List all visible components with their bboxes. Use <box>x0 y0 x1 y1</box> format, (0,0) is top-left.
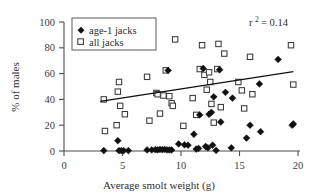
data-point-all-jacks <box>190 95 195 100</box>
x-tick-label: 0 <box>61 160 66 171</box>
data-point-all-jacks <box>247 54 252 59</box>
data-point-all-jacks <box>115 89 120 94</box>
data-point-all-jacks <box>172 37 177 42</box>
data-point-all-jacks <box>122 112 127 117</box>
data-point-all-jacks <box>144 74 149 79</box>
y-tick-label: 0 <box>50 146 55 157</box>
r-squared-value: = 0.14 <box>261 17 289 28</box>
y-tick-label: 100 <box>39 17 55 28</box>
x-tick-label: 5 <box>120 160 125 171</box>
y-tick-label: 20 <box>45 120 56 131</box>
legend-label-age-1-jacks: age-1 jacks <box>89 25 137 36</box>
legend: age-1 jacks all jacks <box>72 18 156 50</box>
data-point-all-jacks <box>102 128 107 133</box>
data-point-all-jacks <box>206 70 211 75</box>
chart-svg: 020406080100 05101520 Average smolt weig… <box>0 0 318 196</box>
legend-label-all-jacks: all jacks <box>89 37 124 48</box>
data-point-all-jacks <box>161 93 166 98</box>
data-point-all-jacks <box>204 87 209 92</box>
data-point-all-jacks <box>209 101 214 106</box>
data-point-all-jacks <box>218 104 223 109</box>
data-point-all-jacks <box>167 93 172 98</box>
data-point-all-jacks <box>288 43 293 48</box>
data-point-all-jacks <box>199 43 204 48</box>
data-point-all-jacks <box>239 88 244 93</box>
data-point-all-jacks <box>181 123 186 128</box>
data-point-all-jacks <box>241 106 246 111</box>
data-point-all-jacks <box>157 111 162 116</box>
data-point-all-jacks <box>250 92 255 97</box>
y-tick-label: 80 <box>45 42 56 53</box>
data-point-all-jacks <box>114 123 119 128</box>
y-tick-label: 60 <box>45 68 56 79</box>
data-point-all-jacks <box>147 118 152 123</box>
data-point-all-jacks <box>117 103 122 108</box>
data-point-all-jacks <box>216 41 221 46</box>
data-point-all-jacks <box>116 79 121 84</box>
x-tick-label: 15 <box>234 160 245 171</box>
r-squared-label: r <box>249 17 253 28</box>
data-point-all-jacks <box>170 103 175 108</box>
x-tick-label: 10 <box>176 160 187 171</box>
r-squared-exponent: 2 <box>255 15 259 24</box>
x-axis-title: Average smolt weight (g) <box>103 179 215 192</box>
y-axis-title: % of males <box>9 62 21 111</box>
data-point-all-jacks <box>211 120 216 125</box>
open-square-icon <box>78 39 84 45</box>
x-tick-label: 20 <box>293 160 304 171</box>
y-tick-label: 40 <box>45 94 56 105</box>
data-point-all-jacks <box>291 82 296 87</box>
scatter-chart-figure: 020406080100 05101520 Average smolt weig… <box>0 0 318 196</box>
data-point-all-jacks <box>222 51 227 56</box>
